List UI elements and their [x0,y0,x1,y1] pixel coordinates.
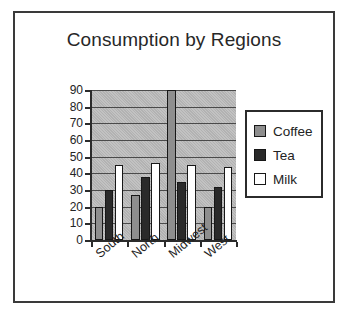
bar-west-milk [224,167,233,240]
bar-north-tea [141,177,150,240]
y-axis-tick-label: 30 [57,185,83,195]
legend-label: Milk [273,172,297,187]
y-axis-tick-mark [85,123,91,125]
bar-north-milk [151,163,160,240]
legend-item-coffee[interactable]: Coffee [254,119,321,143]
bar-south-coffee [95,207,104,240]
gridline [91,157,236,158]
y-axis-tick-label: 0 [57,235,83,245]
bar-north-coffee [131,195,140,240]
gridline [91,107,236,108]
y-axis-tick-label: 90 [57,85,83,95]
y-axis-tick-mark [85,90,91,92]
gridline [91,140,236,141]
x-axis-tick-mark [200,242,202,247]
y-axis-tick-mark [85,190,91,192]
x-axis-tick-mark [236,242,238,247]
y-axis-tick-mark [85,157,91,159]
legend-label: Coffee [273,124,313,139]
y-axis-tick-label: 10 [57,218,83,228]
y-axis-tick-mark [85,207,91,209]
x-axis-tick-mark [91,242,93,247]
legend-item-tea[interactable]: Tea [254,143,321,167]
y-axis-tick-mark [85,107,91,109]
y-axis-tick-label: 50 [57,152,83,162]
y-axis-tick-mark [85,140,91,142]
gridline [91,173,236,174]
y-axis-tick-mark [85,173,91,175]
legend-item-milk[interactable]: Milk [254,167,321,191]
y-axis-tick-label: 40 [57,168,83,178]
bar-west-tea [214,187,223,240]
chart-frame: Consumption by Regions 90807060504030201… [13,11,335,303]
y-axis-labels: 9080706050403020100 [55,90,83,240]
y-axis-line [90,90,92,241]
y-axis-tick-mark [85,223,91,225]
bar-midwest-coffee [167,90,176,240]
bar-midwest-tea [177,182,186,240]
x-axis-tick-mark [127,242,129,247]
legend-label: Tea [273,148,295,163]
legend-swatch-tea-icon [254,149,266,161]
legend-swatch-coffee-icon [254,125,266,137]
x-axis-tick-mark [164,242,166,247]
chart-legend: CoffeeTeaMilk [245,110,323,198]
y-axis-tick-label: 20 [57,202,83,212]
gridline [91,123,236,124]
y-axis-tick-label: 60 [57,135,83,145]
legend-swatch-milk-icon [254,173,266,185]
y-axis-tick-label: 70 [57,118,83,128]
gridline [91,90,236,91]
y-axis-tick-label: 80 [57,102,83,112]
plot-area [91,90,236,240]
